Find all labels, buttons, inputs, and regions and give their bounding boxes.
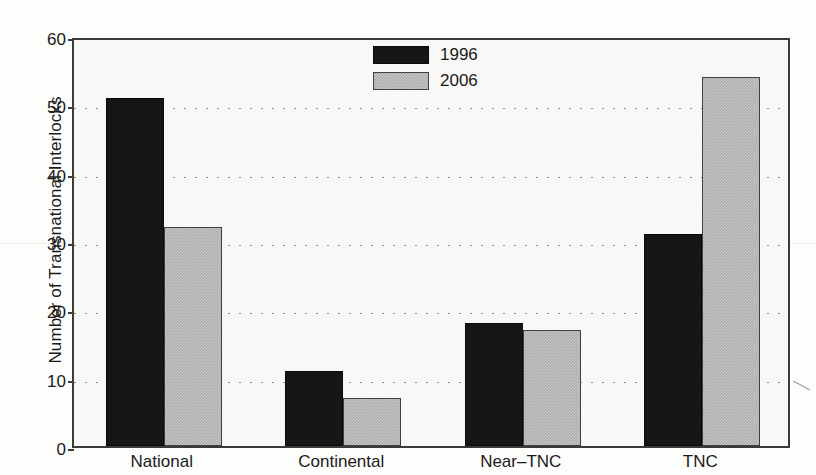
plot-inner: 0102030405060 (74, 40, 788, 446)
y-axis-title: Number of Transnational Interlocks (46, 30, 66, 430)
x-tick-label-continental: Continental (298, 452, 384, 472)
bar-continental-1996 (285, 371, 343, 446)
legend-item-2006: 2006 (373, 69, 478, 92)
bar-near-tnc-1996 (465, 323, 523, 446)
bar-tnc-2006 (702, 77, 760, 446)
x-tick-label-tnc: TNC (683, 452, 718, 472)
bar-continental-2006 (343, 398, 401, 446)
bar-near-tnc-2006 (523, 330, 581, 446)
pen-mark-artifact (793, 381, 810, 390)
y-tick-mark (68, 107, 74, 109)
legend-label-2006: 2006 (440, 71, 478, 91)
chart-legend: 1996 2006 (373, 43, 478, 95)
legend-item-1996: 1996 (373, 43, 478, 66)
legend-swatch-1996 (373, 46, 429, 64)
bar-national-1996 (106, 98, 164, 447)
plot-area: 0102030405060 (72, 38, 790, 448)
gridline (74, 108, 788, 109)
chart-screenshot: Number of Transnational Interlocks 01020… (0, 0, 816, 475)
x-tick-label-near-tnc: Near–TNC (480, 452, 561, 472)
bar-national-2006 (164, 227, 222, 446)
y-tick-mark (68, 312, 74, 314)
y-tick-mark (68, 381, 74, 383)
y-tick-mark (68, 39, 74, 41)
y-tick-mark (68, 449, 74, 451)
y-tick-label: 20 (47, 303, 66, 323)
y-tick-label: 40 (47, 167, 66, 187)
y-tick-label: 50 (47, 98, 66, 118)
y-tick-label: 0 (57, 440, 66, 460)
y-tick-mark (68, 244, 74, 246)
gridline (74, 177, 788, 178)
y-tick-label: 60 (47, 30, 66, 50)
x-tick-label-national: National (131, 452, 193, 472)
legend-swatch-2006 (373, 72, 429, 90)
y-tick-label: 10 (47, 372, 66, 392)
legend-label-1996: 1996 (440, 45, 478, 65)
y-tick-mark (68, 176, 74, 178)
y-tick-label: 30 (47, 235, 66, 255)
bar-tnc-1996 (644, 234, 702, 446)
